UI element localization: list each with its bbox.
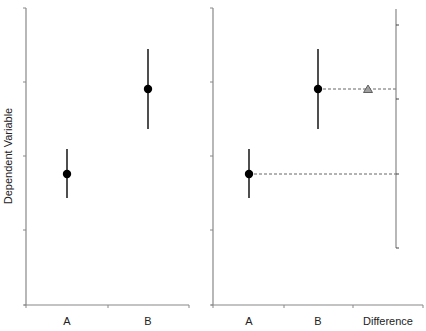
- data-point-a: [63, 170, 71, 178]
- y-axis-label: Dependent Variable: [2, 108, 14, 204]
- chart-canvas: A B Dependent Variable: [0, 0, 426, 331]
- x-label-a: A: [63, 315, 71, 327]
- x-label-b: B: [144, 315, 151, 327]
- x-label-b: B: [314, 315, 321, 327]
- data-point-b: [314, 85, 322, 93]
- x-label-a: A: [245, 315, 253, 327]
- x-label-difference: Difference: [363, 315, 413, 327]
- right-panel: A B Difference: [210, 8, 423, 327]
- left-panel: A B Dependent Variable: [2, 8, 189, 327]
- data-point-b: [144, 85, 152, 93]
- data-point-a: [245, 170, 253, 178]
